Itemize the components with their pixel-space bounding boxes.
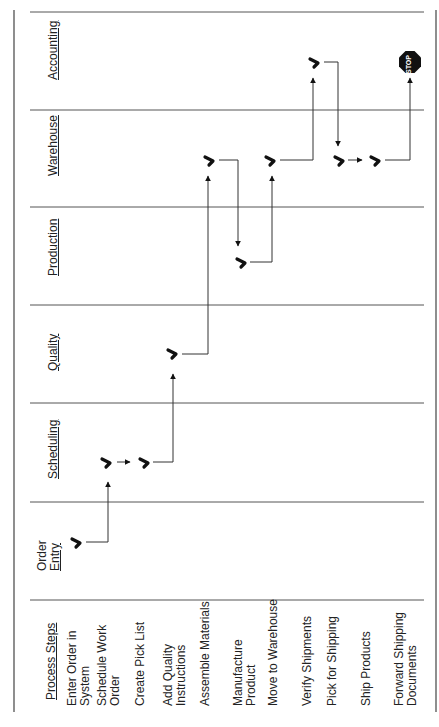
- lane-header-production: Production: [47, 219, 60, 276]
- process-steps-header: Process Steps: [45, 623, 58, 700]
- check-icon: [310, 59, 318, 67]
- step-label: Schedule WorkOrder: [96, 625, 122, 706]
- check-icon: [205, 157, 213, 165]
- step-label: Add QualityInstructions: [162, 644, 188, 706]
- check-icon: [237, 259, 245, 267]
- lane-header-scheduling: Scheduling: [47, 420, 60, 479]
- lane-header-order-entry: Order Entry: [36, 540, 62, 571]
- step-label: Verify Shipments: [301, 616, 314, 706]
- step-label: Ship Products: [360, 631, 373, 706]
- check-icon: [72, 539, 80, 547]
- step-label: Enter Order inSystem: [66, 631, 92, 706]
- swimlane-diagram: STOP Accounting Warehouse Production Qua…: [0, 0, 439, 727]
- check-icon: [168, 350, 176, 358]
- step-label: Create Pick List: [134, 622, 147, 706]
- check-icon: [140, 459, 148, 467]
- step-label: Forward ShippingDocuments: [393, 612, 419, 706]
- step-label: ManufactureProduct: [232, 639, 258, 706]
- lane-header-quality: Quality: [47, 334, 60, 371]
- lane-header-accounting: Accounting: [47, 21, 60, 80]
- check-icon: [266, 157, 274, 165]
- stop-label: STOP: [405, 55, 413, 74]
- step-label: Move to Warehouse: [267, 599, 280, 706]
- step-label: Pick for Shipping: [326, 616, 339, 706]
- step-label: Assemble Materials: [199, 601, 212, 706]
- lane-header-warehouse: Warehouse: [47, 115, 60, 176]
- diagram-lines: [0, 0, 439, 727]
- check-icon: [371, 157, 379, 165]
- check-icon: [102, 459, 110, 467]
- check-icon: [335, 157, 343, 165]
